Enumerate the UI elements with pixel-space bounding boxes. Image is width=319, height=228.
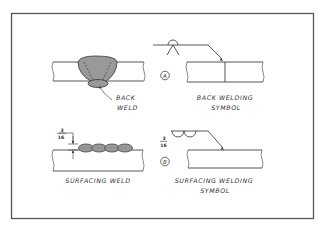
callout-b: B — [161, 157, 170, 166]
back-weld-label-line2: WELD — [117, 104, 138, 111]
diagram-frame — [12, 14, 314, 219]
surfacing-welding-symbol-label-line1: SURFACING WELDING — [175, 177, 254, 184]
surfacing-weld-illustration — [52, 133, 144, 171]
back-weld-label-line1: BACK — [116, 94, 136, 101]
surfacing-symbol-dim-numerator: 3 — [162, 136, 165, 141]
back-welding-symbol-label-line1: BACK WELDING — [197, 94, 253, 101]
weld-bead — [78, 56, 117, 82]
callout-b-text: B — [163, 159, 167, 165]
surfacing-weld-dim-denominator: 16 — [58, 135, 64, 140]
surfacing-welding-symbol-illustration — [171, 131, 263, 168]
surfacing-symbol-dim-denominator: 16 — [160, 143, 166, 148]
callout-a-text: A — [162, 73, 167, 79]
welding-diagram: BACK WELD A BACK WELDING SYMBOL — [0, 0, 319, 228]
back-weld-bead — [88, 80, 108, 88]
callout-a: A — [161, 71, 170, 80]
surfacing-weld-dim-numerator: 3 — [60, 128, 63, 133]
surfacing-weld-label: SURFACING WELD — [65, 177, 130, 184]
back-welding-symbol-label-line2: SYMBOL — [211, 104, 241, 111]
surfacing-welding-symbol-label-line2: SYMBOL — [200, 187, 230, 194]
